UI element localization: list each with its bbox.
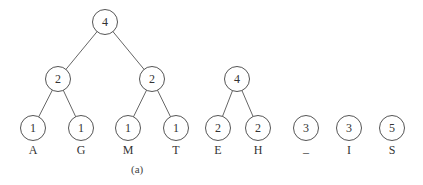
leaf-node-h: 2: [245, 115, 271, 141]
leaf-label-i: I: [339, 143, 359, 158]
leaf-label-t: T: [166, 143, 186, 158]
tree-node-left: 2: [45, 66, 71, 92]
leaf-label-h: H: [248, 143, 268, 158]
figure-caption: (a): [131, 163, 143, 175]
leaf-label-underscore: _: [296, 141, 316, 156]
leaf-label-s: S: [382, 143, 402, 158]
tree-node-root: 4: [92, 9, 118, 35]
leaf-label-a: A: [23, 143, 43, 158]
leaf-node-t: 1: [163, 115, 189, 141]
leaf-node-m: 1: [115, 115, 141, 141]
leaf-node-g: 1: [68, 115, 94, 141]
leaf-node-a: 1: [20, 115, 46, 141]
leaf-node-e: 2: [205, 115, 231, 141]
leaf-label-g: G: [71, 143, 91, 158]
subtree-node-eh: 4: [224, 66, 250, 92]
tree-node-right: 2: [139, 66, 165, 92]
leaf-node-i: 3: [336, 115, 362, 141]
leaf-node-s: 5: [379, 115, 405, 141]
leaf-label-m: M: [118, 143, 138, 158]
leaf-node-underscore: 3: [293, 115, 319, 141]
leaf-label-e: E: [208, 143, 228, 158]
